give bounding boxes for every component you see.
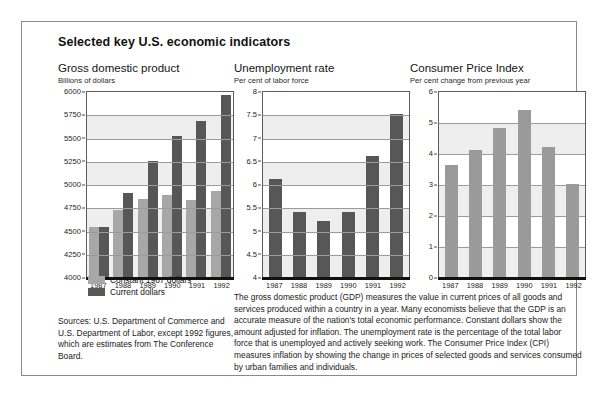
x-axis-rule-unemployment: [262, 277, 410, 280]
bar: [518, 110, 531, 277]
grid-line: [87, 255, 233, 256]
y-tick-label: 5: [253, 226, 257, 235]
bar: [317, 221, 330, 277]
bar: [89, 227, 99, 277]
legend-swatch-constant-dollars: [88, 276, 105, 284]
grid-line: [87, 162, 233, 163]
y-tick-label: 5: [429, 118, 433, 127]
legend-swatch-current-dollars: [88, 288, 105, 296]
grid-line: [439, 216, 585, 217]
x-tick-label: 1991: [541, 281, 557, 290]
x-tick-label: 1992: [213, 281, 229, 290]
x-tick-label: 1991: [365, 281, 381, 290]
x-labels-cpi: 198719881989199019911992: [438, 281, 586, 290]
y-tick-label: 6.5: [246, 156, 257, 165]
grid-line: [263, 232, 409, 233]
chart-panel-gdp: Gross domestic product Billions of dolla…: [58, 62, 234, 277]
y-tick-label: 5000: [64, 180, 81, 189]
x-tick-label: 1990: [516, 281, 532, 290]
chart-title-unemployment: Unemployment rate: [234, 62, 410, 75]
plot-unemployment: 87.576.565.554.54 1987198819891990199119…: [234, 91, 410, 277]
figure-frame: Selected key U.S. economic indicators Gr…: [21, 21, 577, 376]
x-tick-label: 1989: [491, 281, 507, 290]
grid-line: [263, 208, 409, 209]
grid-line: [87, 115, 233, 116]
chart-title-gdp: Gross domestic product: [58, 62, 234, 75]
y-tick-label: 4250: [64, 249, 81, 258]
y-axis-gdp: 600057505500525050004750450042504000: [58, 91, 85, 277]
bar: [445, 165, 458, 277]
grid-line: [263, 255, 409, 256]
x-tick-label: 1990: [340, 281, 356, 290]
grid-line: [439, 123, 585, 124]
y-tick-label: 4500: [64, 226, 81, 235]
bar: [172, 136, 182, 277]
chart-panel-unemployment: Unemployment rate Per cent of labor forc…: [234, 62, 410, 277]
bar: [293, 212, 306, 277]
figure-caption-body: The gross domestic product (GDP) measure…: [234, 292, 582, 373]
grid-line: [263, 162, 409, 163]
x-tick-label: 1988: [291, 281, 307, 290]
y-tick-label: 6000: [64, 87, 81, 96]
bar: [469, 150, 482, 277]
plot-area-unemployment: [262, 91, 410, 277]
grid-line: [263, 115, 409, 116]
y-tick-label: 4: [429, 149, 433, 158]
x-tick-label: 1987: [266, 281, 282, 290]
grid-line: [87, 208, 233, 209]
y-tick-label: 5500: [64, 133, 81, 142]
bar: [211, 191, 221, 277]
legend-item: Current dollars: [88, 286, 191, 297]
chart-subtitle-cpi: Per cent change from previous year: [410, 76, 586, 86]
chart-panel-cpi: Consumer Price Index Per cent change fro…: [410, 62, 586, 277]
grid-line: [263, 185, 409, 186]
grid-line: [87, 232, 233, 233]
chart-subtitle-gdp: Billions of dollars: [58, 76, 234, 86]
bar: [113, 210, 123, 277]
grid-line: [87, 139, 233, 140]
bar: [542, 147, 555, 277]
legend-label-current-dollars: Current dollars: [110, 287, 165, 297]
chart-subtitle-unemployment: Per cent of labor force: [234, 76, 410, 86]
y-tick-label: 5.5: [246, 203, 257, 212]
x-axis-rule-cpi: [438, 277, 586, 280]
chart-title-cpi: Consumer Price Index: [410, 62, 586, 75]
y-tick-label: 7.5: [246, 110, 257, 119]
y-tick-label: 4: [253, 273, 257, 282]
y-tick-label: 5250: [64, 156, 81, 165]
y-tick-label: 7: [253, 133, 257, 142]
y-tick-label: 4750: [64, 203, 81, 212]
y-axis-cpi: 6543210: [410, 91, 437, 277]
y-tick-label: 8: [253, 87, 257, 96]
legend-label-constant-dollars: Constant 1987 dollars: [110, 275, 191, 285]
bar: [186, 200, 196, 277]
plot-gdp: 600057505500525050004750450042504000 198…: [58, 91, 234, 277]
y-tick-label: 2: [429, 211, 433, 220]
figure-title: Selected key U.S. economic indicators: [58, 35, 290, 49]
bar: [566, 184, 579, 277]
y-tick-label: 3: [429, 180, 433, 189]
bar: [138, 199, 148, 277]
y-tick-label: 4000: [64, 273, 81, 282]
x-tick-label: 1988: [467, 281, 483, 290]
y-axis-unemployment: 87.576.565.554.54: [234, 91, 261, 277]
x-labels-unemployment: 198719881989199019911992: [262, 281, 410, 290]
y-tick-label: 0: [429, 273, 433, 282]
y-tick-label: 5750: [64, 110, 81, 119]
bar: [196, 121, 206, 277]
bar: [342, 212, 355, 277]
sources-note: Sources: U.S. Department of Commerce and…: [58, 316, 238, 362]
legend-item: Constant 1987 dollars: [88, 274, 191, 285]
plot-cpi: 6543210 198719881989199019911992: [410, 91, 586, 277]
y-tick-label: 1: [429, 242, 433, 251]
plot-area-gdp: [86, 91, 234, 277]
y-tick-label: 6: [253, 180, 257, 189]
x-tick-label: 1992: [389, 281, 405, 290]
bar: [366, 156, 379, 277]
x-tick-label: 1989: [315, 281, 331, 290]
x-tick-label: 1992: [565, 281, 581, 290]
y-tick-label: 6: [429, 87, 433, 96]
chart-legend: Constant 1987 dollars Current dollars: [88, 274, 191, 298]
bar: [269, 179, 282, 277]
plot-area-cpi: [438, 91, 586, 277]
